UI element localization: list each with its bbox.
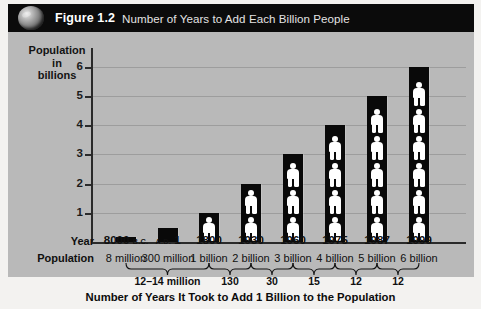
person-icon [413,163,426,187]
person-icon [329,136,342,160]
person-icon [329,163,342,187]
interval-label: 12 [338,275,458,287]
y-tick [85,154,92,156]
y-tick [85,96,92,98]
person-icon [413,82,426,106]
y-tick-label: 5 [67,89,83,101]
year-cell: 1999 [374,234,464,246]
figure-container: Figure 1.2 Number of Years to Add Each B… [0,0,481,309]
y-tick-label: 3 [67,147,83,159]
person-icon [371,163,384,187]
y-axis-title: Population in billions [18,44,96,82]
figure-number: Figure 1.2 [55,11,115,25]
person-icon [413,136,426,160]
person-icon [329,190,342,214]
y-tick-label: 1 [67,206,83,218]
brace [377,263,419,275]
data-table: Year Population 8000 B.C.A.D. 1180019301… [0,231,481,309]
brace [209,263,251,275]
brace [251,263,293,275]
figure-title: Number of Years to Add Each Billion Peop… [122,12,350,25]
person-icon [287,163,300,187]
bar [283,154,303,242]
person-icon [245,190,258,214]
person-icon [413,190,426,214]
x-axis-title: Number of Years It Took to Add 1 Billion… [0,291,481,303]
person-icon [371,190,384,214]
plot-area: 123456 [91,48,466,244]
y-tick [85,125,92,127]
bar [325,125,345,242]
brace [335,263,377,275]
brace [126,263,209,275]
globe-icon [18,6,44,30]
y-tick [85,213,92,215]
person-icon [371,109,384,133]
figure-header: Figure 1.2 Number of Years to Add Each B… [8,4,474,32]
person-icon [413,109,426,133]
bar [409,67,429,242]
bar [367,96,387,242]
y-axis-title-line3: billions [18,69,96,82]
y-tick-label: 2 [67,177,83,189]
y-tick-label: 4 [67,118,83,130]
brace [293,263,335,275]
person-icon [287,190,300,214]
y-tick-label: 6 [67,60,83,72]
y-axis-title-line1: Population [18,44,96,57]
y-tick [85,184,92,186]
y-tick [85,67,92,69]
person-icon [371,136,384,160]
